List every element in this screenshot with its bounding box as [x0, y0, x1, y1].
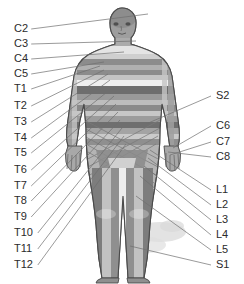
dermatome-label-t6: T6 [14, 163, 27, 175]
dermatome-label-l5: L5 [216, 243, 228, 255]
feet [96, 278, 150, 283]
dermatome-label-l3: L3 [216, 213, 228, 225]
dermatome-label-c6: C6 [216, 119, 230, 131]
dermatome-label-t11: T11 [14, 242, 32, 254]
dermatome-label-s2: S2 [216, 89, 229, 101]
dermatome-label-t7: T7 [14, 179, 27, 191]
dermatome-label-t8: T8 [14, 194, 27, 206]
dermatome-label-c7: C7 [216, 135, 230, 147]
dermatome-label-l1: L1 [216, 183, 228, 195]
dermatome-label-c5: C5 [14, 67, 28, 79]
dermatome-label-t2: T2 [14, 99, 27, 111]
dermatome-label-t1: T1 [14, 82, 27, 94]
dermatome-label-t12: T12 [14, 258, 33, 270]
left-hand [65, 146, 82, 171]
right-hand [164, 146, 181, 171]
dermatome-label-t9: T9 [14, 210, 27, 222]
dermatome-label-t5: T5 [14, 146, 27, 158]
dermatome-label-c3: C3 [14, 37, 28, 49]
dermatome-label-c2: C2 [14, 22, 28, 34]
dermatome-label-s1: S1 [216, 258, 229, 270]
dermatome-label-t4: T4 [14, 131, 27, 143]
dermatome-label-c8: C8 [216, 150, 230, 162]
dermatome-label-l4: L4 [216, 228, 228, 240]
dermatome-label-l2: L2 [216, 198, 228, 210]
dermatome-diagram: C2C3C4C5T1T2T3T4T5T6T7T8T9T10T11T12 S2C6… [0, 0, 244, 284]
dermatome-label-t10: T10 [14, 226, 33, 238]
dermatome-label-t3: T3 [14, 115, 27, 127]
dermatome-labels-left: C2C3C4C5T1T2T3T4T5T6T7T8T9T10T11T12 [14, 22, 33, 270]
dermatome-label-c4: C4 [14, 52, 28, 64]
dermatome-labels-right: S2C6C7C8L1L2L3L4L5S1 [216, 89, 230, 270]
